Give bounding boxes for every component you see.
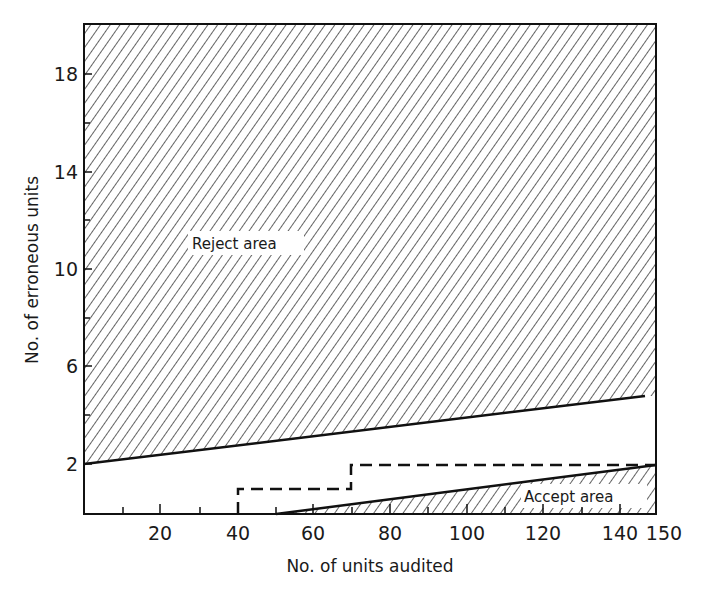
x-tick-label: 140 [602, 522, 638, 544]
x-tick-label: 40 [226, 522, 250, 544]
reject-area-label: Reject area [192, 235, 277, 253]
reject-area-region [84, 24, 656, 464]
y-axis-title: No. of erroneous units [22, 176, 42, 364]
x-tick-label: 150 [646, 522, 682, 544]
x-axis-title: No. of units audited [286, 556, 453, 576]
x-tick-label: 20 [148, 522, 172, 544]
sequential-sampling-chart: Reject area Accept area 2 6 10 14 18 20 … [0, 0, 701, 592]
y-tick-label: 2 [66, 453, 78, 475]
y-tick-label: 10 [54, 258, 78, 280]
accept-area-label: Accept area [524, 488, 613, 506]
x-tick-label: 120 [525, 522, 561, 544]
x-tick-label: 80 [378, 522, 402, 544]
y-tick-label: 18 [54, 63, 78, 85]
y-tick-label: 6 [66, 355, 78, 377]
y-tick-label: 14 [54, 161, 78, 183]
x-tick-label: 100 [449, 522, 485, 544]
x-tick-label: 60 [301, 522, 325, 544]
